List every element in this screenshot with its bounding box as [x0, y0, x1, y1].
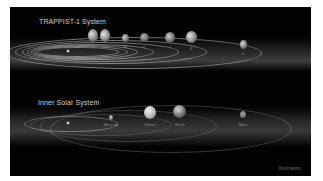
- trappist-planet-d: [122, 34, 129, 42]
- trappist-star: [67, 50, 69, 52]
- solar-planet-venus: [144, 106, 156, 119]
- trappist-planet-e: [140, 33, 149, 42]
- trappist-label-f: f: [169, 45, 170, 50]
- sun: [67, 122, 69, 124]
- trappist-planet-b: [88, 29, 98, 42]
- trappist-label-b: b: [92, 44, 94, 49]
- trappist-label-c: c: [104, 44, 106, 49]
- solar-label-mars: Mars: [239, 122, 248, 127]
- illustration-panel: TRAPPIST-1 System b c d e f g h Inner So…: [10, 7, 311, 176]
- trappist-label-d: d: [124, 44, 126, 49]
- illustration-credit: Illustration: [278, 165, 301, 171]
- trappist-label-g: g: [190, 45, 192, 50]
- trappist-planet-h: [240, 40, 247, 49]
- solar-label-earth: Earth: [175, 122, 185, 127]
- trappist-planet-g: [186, 31, 197, 43]
- trappist-label-e: e: [143, 44, 145, 49]
- trappist-label-h: h: [242, 51, 244, 56]
- trappist-orbit-b: [37, 47, 119, 57]
- solar-label-mercury: Mercury: [104, 122, 118, 127]
- solar-title: Inner Solar System: [38, 99, 99, 106]
- solar-planet-mercury: [109, 115, 113, 120]
- trappist-planet-c: [100, 29, 110, 42]
- solar-label-venus: Venus: [144, 122, 155, 127]
- solar-planet-earth: [173, 105, 186, 118]
- trappist-planet-f: [165, 32, 175, 43]
- trappist-title: TRAPPIST-1 System: [39, 18, 106, 25]
- solar-planet-mars: [240, 111, 246, 118]
